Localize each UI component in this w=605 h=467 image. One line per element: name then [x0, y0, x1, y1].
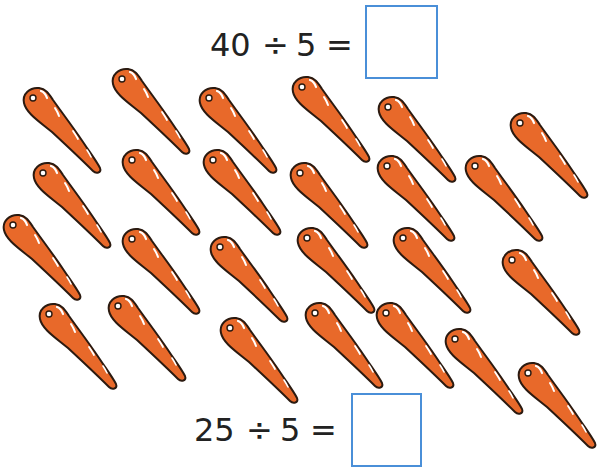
answer-box-1[interactable] [365, 5, 438, 79]
carrot-icon [295, 227, 375, 313]
carrot-icon [1, 214, 81, 300]
carrot-24 [443, 328, 523, 414]
equals-sign: = [310, 414, 337, 446]
carrot-1 [21, 87, 101, 173]
carrot-16 [295, 227, 375, 313]
divisor: 5 [296, 29, 316, 61]
carrot-icon [391, 227, 471, 313]
carrot-icon [500, 249, 580, 335]
carrot-icon [303, 302, 383, 388]
carrot-icon [443, 328, 523, 414]
division-equation-2: 25 ÷ 5 = [194, 414, 344, 446]
carrot-icon [516, 362, 596, 448]
carrot-20 [106, 295, 186, 381]
carrot-icon [218, 317, 298, 403]
answer-box-2[interactable] [351, 393, 422, 467]
divide-sign: ÷ [246, 414, 273, 446]
carrot-4 [290, 76, 370, 162]
carrot-icon [201, 149, 281, 235]
carrot-25 [516, 362, 596, 448]
carrot-icon [110, 68, 190, 154]
carrot-icon [463, 155, 543, 241]
carrot-9 [201, 149, 281, 235]
carrot-icon [37, 303, 117, 389]
equals-sign: = [326, 29, 353, 61]
carrot-21 [218, 317, 298, 403]
carrot-19 [37, 303, 117, 389]
division-equation-1: 40 ÷ 5 = [210, 29, 360, 61]
carrot-2 [110, 68, 190, 154]
carrot-icon [120, 149, 200, 235]
carrot-icon [21, 87, 101, 173]
carrot-icon [106, 295, 186, 381]
carrot-22 [303, 302, 383, 388]
carrot-icon [374, 302, 454, 388]
carrot-12 [463, 155, 543, 241]
carrot-23 [374, 302, 454, 388]
carrot-icon [208, 236, 288, 322]
carrot-15 [208, 236, 288, 322]
carrot-18 [500, 249, 580, 335]
dividend: 25 [194, 414, 235, 446]
dividend: 40 [210, 29, 251, 61]
carrot-17 [391, 227, 471, 313]
carrot-icon [290, 76, 370, 162]
carrot-13 [1, 214, 81, 300]
divisor: 5 [280, 414, 300, 446]
carrot-8 [120, 149, 200, 235]
divide-sign: ÷ [262, 29, 289, 61]
